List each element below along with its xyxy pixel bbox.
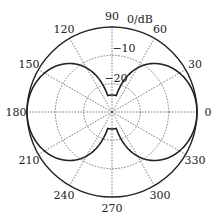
radial-label-minus10: −10 xyxy=(112,42,135,55)
axis-labels: 03060901201501802102402703003300/dB−10−2… xyxy=(6,10,212,215)
angle-label: 0 xyxy=(205,106,212,119)
angle-label: 210 xyxy=(18,154,39,167)
grid-spoke xyxy=(38,112,112,155)
radial-label-minus20: −20 xyxy=(104,72,127,85)
angle-label: 150 xyxy=(18,58,39,71)
angle-label: 60 xyxy=(153,23,167,36)
angle-label: 330 xyxy=(185,154,206,167)
grid-spoke xyxy=(112,112,186,155)
angle-label: 240 xyxy=(54,189,75,202)
angle-label: 90 xyxy=(105,10,119,23)
grid-spoke xyxy=(38,70,112,113)
angle-label: 120 xyxy=(54,23,75,36)
angle-label: 300 xyxy=(150,189,171,202)
angle-label: 180 xyxy=(6,106,27,119)
grid-spoke xyxy=(112,112,155,186)
radial-unit-label: 0/dB xyxy=(127,13,153,26)
grid-spoke xyxy=(70,112,113,186)
angle-label: 30 xyxy=(188,58,202,71)
angle-label: 270 xyxy=(102,202,123,215)
polar-chart: 03060901201501802102402703003300/dB−10−2… xyxy=(0,0,217,222)
